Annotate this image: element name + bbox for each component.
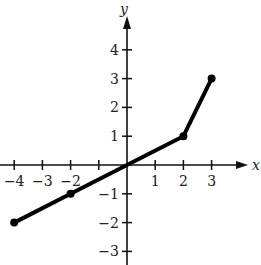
y-axis-arrow-icon <box>123 16 131 29</box>
y-tick-label: 2 <box>110 99 119 115</box>
y-axis-label: y <box>119 1 129 17</box>
line-chart: xy −4−3−21234321−1−2−3 <box>0 0 261 265</box>
data-point-marker <box>179 132 187 140</box>
y-tick-label: −3 <box>98 243 119 259</box>
y-tick-label: 4 <box>110 42 119 58</box>
data-point-marker <box>10 219 18 227</box>
y-tick-label: −2 <box>98 215 119 231</box>
x-tick-label: 3 <box>207 173 216 189</box>
y-tick-label: −1 <box>98 186 119 202</box>
x-tick-label: 1 <box>151 173 160 189</box>
x-tick-label: −4 <box>4 173 25 189</box>
chart-stage: xy −4−3−21234321−1−2−3 <box>0 0 261 265</box>
x-tick-label: 2 <box>179 173 188 189</box>
data-point-marker <box>208 75 216 83</box>
tick-labels: −4−3−21234321−1−2−3 <box>4 42 216 260</box>
x-axis-arrow-icon <box>236 161 248 169</box>
y-tick-label: 3 <box>110 71 119 87</box>
y-tick-label: 1 <box>110 128 119 144</box>
data-series <box>10 75 215 227</box>
axes: xy <box>0 1 260 265</box>
x-axis-label: x <box>252 157 260 173</box>
x-tick-label: −2 <box>60 173 81 189</box>
x-tick-label: −3 <box>32 173 53 189</box>
data-point-marker <box>67 190 75 198</box>
